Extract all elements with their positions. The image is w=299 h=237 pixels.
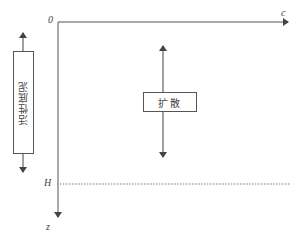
active-sludge-label: 活性底泥 [16,81,31,125]
diffusion-box: 扩散 [143,92,197,112]
diffusion-label: 扩散 [158,95,182,110]
active-sludge-box: 活性底泥 [13,51,34,154]
c-axis-label: c [281,8,285,18]
diagram-canvas [0,0,299,237]
origin-label: 0 [48,15,53,25]
z-axis-label: z [46,222,50,232]
h-label: H [44,178,51,188]
